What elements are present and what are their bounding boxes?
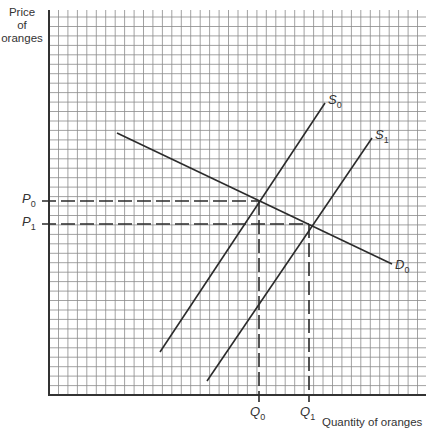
y-label-line: oranges [0, 32, 44, 45]
supply-demand-diagram [0, 0, 429, 435]
y-axis-label: Price of oranges [0, 6, 44, 45]
label-subscript: 0 [404, 265, 409, 275]
demand-curve-d0 [117, 133, 392, 264]
label-base: Q [250, 404, 260, 419]
label-base: S [375, 127, 384, 142]
label-subscript: 1 [31, 222, 36, 232]
equilibrium-guides [42, 201, 309, 402]
quantity-label-q1: Q1 [300, 405, 315, 422]
curve-label-d0: D0 [395, 258, 409, 275]
label-subscript: 0 [31, 199, 36, 209]
supply-curve-s1 [207, 138, 372, 381]
label-base: Q [300, 404, 310, 419]
label-base: P [22, 191, 31, 206]
label-subscript: 0 [337, 100, 342, 110]
label-subscript: 0 [260, 412, 265, 422]
label-subscript: 1 [310, 412, 315, 422]
supply-curve-s0 [160, 103, 325, 352]
label-subscript: 1 [384, 135, 389, 145]
label-base: D [395, 257, 404, 272]
price-label-p1: P1 [22, 215, 36, 232]
curves [117, 103, 392, 381]
curve-label-s1: S1 [375, 128, 389, 145]
price-label-p0: P0 [22, 192, 36, 209]
label-base: P [22, 214, 31, 229]
curve-label-s0: S0 [328, 93, 342, 110]
y-label-line: of [0, 19, 44, 32]
label-base: S [328, 92, 337, 107]
y-label-line: Price [0, 6, 44, 19]
x-axis-label: Quantity of oranges [322, 417, 422, 429]
quantity-label-q0: Q0 [250, 405, 265, 422]
